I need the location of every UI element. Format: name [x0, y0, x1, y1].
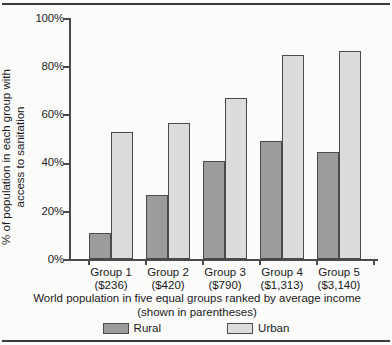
x-tick-4	[316, 259, 318, 265]
y-tick-20	[63, 211, 69, 213]
bar-urban-group-3	[225, 98, 247, 259]
group-2-name: Group 2	[147, 266, 189, 278]
x-axis-title-line2: (shown in parentheses)	[14, 306, 380, 320]
bar-urban-group-1	[111, 132, 133, 259]
y-tick-60	[63, 114, 69, 116]
group-5-income: ($3,140)	[299, 279, 379, 292]
chart-legend: Rural Urban	[0, 322, 392, 334]
group-5-name: Group 5	[318, 266, 360, 278]
y-tick-label-0: 0%	[18, 253, 64, 265]
x-axis-title: World population in five equal groups ra…	[14, 292, 380, 319]
x-axis-title-line1: World population in five equal groups ra…	[14, 292, 380, 306]
bar-rural-group-2	[146, 195, 168, 259]
bar-urban-group-4	[282, 55, 304, 259]
bottom-divider-rule	[2, 340, 390, 342]
y-tick-label-80: 80%	[18, 60, 64, 72]
x-tick-5	[373, 259, 375, 265]
bar-rural-group-5	[317, 152, 339, 259]
bar-urban-group-2	[168, 123, 190, 259]
legend-swatch-urban	[227, 323, 253, 334]
x-axis-line	[69, 259, 378, 261]
group-1-name: Group 1	[90, 266, 132, 278]
y-axis-title-line1: % of population in each group with	[0, 69, 13, 245]
y-tick-label-60: 60%	[18, 108, 64, 120]
bar-rural-group-4	[260, 141, 282, 259]
x-tick-label-group-5: Group 5 ($3,140)	[299, 266, 379, 292]
y-tick-80	[63, 66, 69, 68]
legend-item-urban: Urban	[227, 322, 289, 334]
y-tick-label-20: 20%	[18, 205, 64, 217]
x-tick-2	[202, 259, 204, 265]
plot-area	[70, 18, 378, 259]
y-tick-100	[63, 18, 69, 20]
legend-label-rural: Rural	[134, 322, 161, 334]
x-tick-0	[88, 259, 90, 265]
y-tick-40	[63, 163, 69, 165]
legend-swatch-rural	[103, 323, 129, 334]
chart-figure: % of population in each group with acces…	[0, 0, 392, 345]
x-tick-1	[145, 259, 147, 265]
y-axis-line	[69, 18, 71, 259]
group-3-name: Group 3	[204, 266, 246, 278]
legend-item-rural: Rural	[103, 322, 161, 334]
group-4-name: Group 4	[261, 266, 303, 278]
x-tick-3	[259, 259, 261, 265]
bar-rural-group-3	[203, 161, 225, 259]
bar-rural-group-1	[89, 233, 111, 260]
y-tick-0	[63, 259, 69, 261]
top-divider-rule	[2, 3, 390, 5]
legend-label-urban: Urban	[258, 322, 289, 334]
y-tick-label-100: 100%	[18, 12, 64, 24]
y-tick-label-40: 40%	[18, 156, 64, 168]
bar-urban-group-5	[339, 51, 361, 259]
